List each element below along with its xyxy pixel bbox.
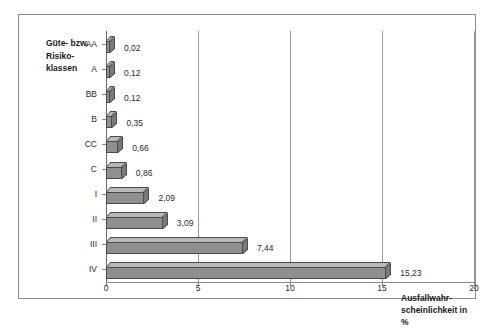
bar-A xyxy=(106,66,110,78)
bar-front-face xyxy=(106,141,118,153)
value-label-CC: 0,66 xyxy=(132,144,149,153)
bar-front-face xyxy=(106,167,122,179)
value-label-I: 2,09 xyxy=(158,194,175,203)
x-tick-label-15: 15 xyxy=(377,284,386,293)
value-label-III: 7,44 xyxy=(257,244,274,253)
bar-IV xyxy=(106,267,386,279)
bar-CC xyxy=(106,141,118,153)
bar-side-face xyxy=(144,187,149,204)
x-tick-label-0: 0 xyxy=(104,284,109,293)
value-label-AA: 0,02 xyxy=(124,44,141,53)
bar-top-face xyxy=(106,262,391,267)
category-row: BB0,12 xyxy=(106,81,474,106)
category-row: I2,09 xyxy=(106,182,474,207)
bar-side-face xyxy=(112,112,117,129)
bar-side-face xyxy=(110,62,115,79)
bar-I xyxy=(106,192,144,204)
bar-B xyxy=(106,116,112,128)
category-label-AA: AA xyxy=(86,39,97,48)
category-label-CC: CC xyxy=(85,140,97,149)
category-row: AA0,02 xyxy=(106,31,474,56)
bar-AA xyxy=(106,41,110,53)
x-tick-label-10: 10 xyxy=(285,284,294,293)
bar-II xyxy=(106,217,163,229)
value-label-C: 0,86 xyxy=(136,169,153,178)
category-label-IV: IV xyxy=(89,265,97,274)
bar-III xyxy=(106,242,243,254)
category-row: IV15,23 xyxy=(106,257,474,282)
category-label-A: A xyxy=(91,64,97,73)
bar-top-face xyxy=(106,187,149,192)
x-tick-label-5: 5 xyxy=(196,284,201,293)
bar-front-face xyxy=(106,192,144,204)
category-label-BB: BB xyxy=(86,89,97,98)
value-label-IV: 15,23 xyxy=(400,269,421,278)
bar-side-face xyxy=(386,262,391,279)
bar-front-face xyxy=(106,267,386,279)
category-label-C: C xyxy=(91,165,97,174)
category-row: B0,35 xyxy=(106,106,474,131)
value-label-BB: 0,12 xyxy=(124,94,141,103)
category-label-B: B xyxy=(91,115,97,124)
bar-side-face xyxy=(243,237,248,254)
category-row: C0,86 xyxy=(106,157,474,182)
value-label-B: 0,35 xyxy=(126,119,143,128)
gridline-20 xyxy=(474,31,475,282)
category-row: III7,44 xyxy=(106,232,474,257)
bar-side-face xyxy=(110,37,115,54)
x-tick-label-20: 20 xyxy=(469,284,478,293)
category-row: II3,09 xyxy=(106,207,474,232)
bar-C xyxy=(106,167,122,179)
category-label-III: III xyxy=(90,240,97,249)
bar-side-face xyxy=(163,212,168,229)
bar-side-face xyxy=(110,87,115,104)
y-axis-title: Güte- bzw. Risiko- klassen xyxy=(46,37,89,75)
bar-BB xyxy=(106,91,110,103)
category-label-II: II xyxy=(92,215,97,224)
bar-front-face xyxy=(106,242,243,254)
category-row: A0,12 xyxy=(106,56,474,81)
bar-front-face xyxy=(106,217,163,229)
bar-side-face xyxy=(118,137,123,154)
plot-area: AA0,02A0,12BB0,12B0,35CC0,66C0,86I2,09II… xyxy=(106,31,474,282)
bar-top-face xyxy=(106,237,247,242)
x-axis-title: Ausfallwahr- scheinlichkeit in % xyxy=(401,292,475,328)
value-label-A: 0,12 xyxy=(124,69,141,78)
figure-frame: Güte- bzw. Risiko- klassen AA0,02A0,12BB… xyxy=(18,14,476,299)
category-label-I: I xyxy=(95,190,97,199)
value-label-II: 3,09 xyxy=(177,219,194,228)
bar-top-face xyxy=(106,212,167,217)
category-row: CC0,66 xyxy=(106,131,474,156)
